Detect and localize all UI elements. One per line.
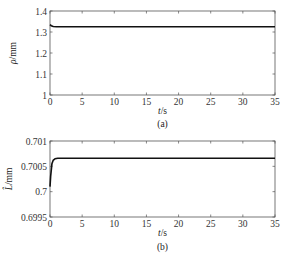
figure: 0510152025303511.11.21.31.4t/sρ/mm(a)051… <box>0 0 284 260</box>
data-line <box>50 25 275 27</box>
y-tick-label: 1 <box>42 91 47 101</box>
y-axis-label: L̂/mm <box>2 167 14 191</box>
y-tick-label: 0.701 <box>26 137 48 147</box>
x-tick-label: 5 <box>80 219 85 229</box>
y-tick-label: 1.2 <box>35 49 47 59</box>
y-tick-label: 1.1 <box>35 70 47 80</box>
data-line <box>50 158 275 186</box>
x-tick-label: 15 <box>142 219 152 229</box>
panel-label: (a) <box>157 119 168 130</box>
x-tick-label: 0 <box>48 219 53 229</box>
x-tick-label: 0 <box>48 97 53 107</box>
chart-panel-a: 0510152025303511.11.21.31.4t/sρ/mm(a) <box>8 7 280 131</box>
axes-frame <box>50 141 275 217</box>
y-tick-label: 0.7005 <box>21 162 47 172</box>
y-tick-label: 0.6995 <box>21 213 47 223</box>
x-tick-label: 15 <box>142 97 152 107</box>
x-tick-label: 35 <box>270 97 280 107</box>
panel-label: (b) <box>157 242 168 253</box>
x-tick-label: 25 <box>206 97 216 107</box>
x-tick-label: 20 <box>174 97 184 107</box>
y-axis-label: ρ/mm <box>8 41 18 65</box>
chart-panel-b: 051015202530350.69950.70.70050.701t/sL̂/… <box>2 137 280 254</box>
x-tick-label: 35 <box>270 219 280 229</box>
x-tick-label: 25 <box>206 219 216 229</box>
x-tick-label: 30 <box>238 97 248 107</box>
x-tick-label: 30 <box>238 219 248 229</box>
x-tick-label: 10 <box>110 97 120 107</box>
x-axis-label: t/s <box>158 106 167 116</box>
y-tick-label: 1.3 <box>35 28 47 38</box>
x-tick-label: 20 <box>174 219 184 229</box>
x-tick-label: 5 <box>80 97 85 107</box>
axes-frame <box>50 11 275 95</box>
x-tick-label: 10 <box>110 219 120 229</box>
x-axis-label: t/s <box>158 228 167 238</box>
y-tick-label: 0.7 <box>35 187 47 197</box>
y-tick-label: 1.4 <box>35 7 47 17</box>
